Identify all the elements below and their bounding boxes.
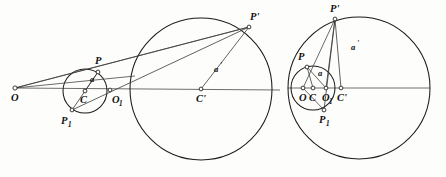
label-alpha-right: a [318,68,323,78]
radius-a-prime-right [335,19,341,88]
figure-root: O C O 1 P P 1 C' P' a a ' [0,0,446,177]
geometry-figure: O C O 1 P P 1 C' P' a a ' [0,0,446,177]
point-P1-left [70,108,74,112]
label-P-right: P [298,51,305,62]
point-O-right [301,86,305,90]
label-C-right: C [309,92,317,103]
label-Cprime-right: C' [337,92,347,103]
chord-P1-to-Pprime-left [72,27,249,110]
point-Cprime-left [199,87,203,91]
radius-a-prime-left [201,27,249,89]
label-alpha-prime-left: a [214,64,219,74]
label-Cprime-left: C' [196,93,206,104]
ray-O-through-P1-extended-left [15,27,249,88]
label-P1-left: P [61,115,68,126]
point-O-left [13,86,17,90]
label-P1-subscript-right: 1 [326,120,330,128]
label-O1-subscript-right: 1 [329,98,333,106]
label-O1-subscript-left: 1 [119,100,123,108]
right-panel: O C O 1 C' P P 1 P' a a ' [288,3,430,159]
label-alpha-prime-right: a [351,42,356,52]
label-alpha-prime-mark-right: ' [357,40,359,48]
point-P-left [96,70,100,74]
point-Cprime-right [339,86,343,90]
point-O1-right [324,86,328,90]
label-P-left: P [95,55,102,66]
axis-line-left [15,88,280,90]
point-P1-right [322,108,326,112]
label-alpha-prime-mark-left: ' [220,62,222,70]
left-panel: O C O 1 P P 1 C' P' a a ' [11,11,280,160]
point-C-right [311,86,315,90]
label-C-left: C [80,94,88,105]
point-O1-left [108,88,112,92]
label-P1-right: P [319,114,326,125]
label-O-left: O [11,92,19,103]
label-alpha-left: a [90,74,95,84]
point-Pprime-right [333,17,337,21]
point-C-left [83,89,87,93]
label-O-right: O [299,92,307,103]
point-P-right [305,65,309,69]
label-P1-subscript-left: 1 [68,121,72,129]
point-Pprime-left [247,25,251,29]
label-Pprime-right: P' [330,3,339,14]
ray-O-through-P1-left [15,76,135,88]
label-Pprime-left: P' [250,11,259,22]
